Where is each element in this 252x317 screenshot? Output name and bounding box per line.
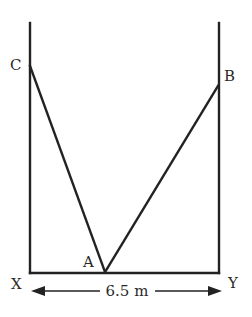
dimension-label: 6.5 m [106,282,149,300]
label-c: C [10,56,21,74]
label-b: B [224,67,235,85]
ladder-ab [105,86,218,272]
label-y: Y [227,274,239,292]
label-a: A [82,253,94,271]
arrowhead-left-icon [31,286,45,296]
ladder-ac [30,66,105,272]
dimension-arrow: 6.5 m [31,282,222,300]
ladder-diagram: C B A X Y 6.5 m [0,0,252,317]
arrowhead-right-icon [208,286,222,296]
label-x: X [11,275,22,293]
